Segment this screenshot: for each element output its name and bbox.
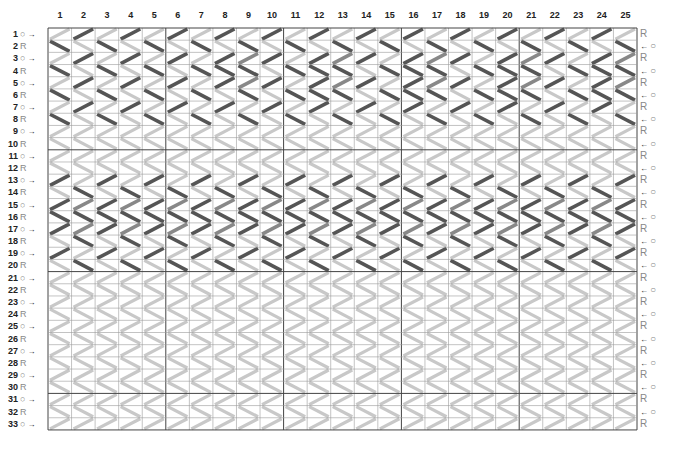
- stroke-cell: [380, 273, 400, 283]
- stroke-cell: [50, 139, 70, 149]
- stroke-cell: [215, 139, 235, 149]
- stroke-cell: [191, 321, 211, 331]
- stroke-cell: [121, 407, 141, 417]
- stroke-cell: [262, 212, 282, 222]
- stroke-cell: [380, 139, 400, 149]
- stroke-cell: [333, 419, 353, 429]
- stroke-cell: [356, 224, 376, 234]
- stroke-cell: [97, 321, 117, 331]
- stroke-cell: [451, 273, 471, 283]
- stroke-cell: [286, 419, 306, 429]
- stroke-cell: [545, 212, 565, 222]
- stroke-cell: [144, 419, 164, 429]
- stroke-cell: [451, 212, 471, 222]
- stroke-cell: [474, 114, 494, 124]
- stroke-cell: [521, 78, 541, 88]
- stroke-cell: [403, 187, 423, 197]
- stroke-cell: [333, 321, 353, 331]
- stroke-cell: [615, 394, 635, 404]
- stroke-cell: [592, 394, 612, 404]
- stroke-cell: [168, 41, 188, 51]
- stroke-cell: [615, 151, 635, 161]
- stroke-cell: [215, 53, 235, 63]
- stroke-cell: [427, 394, 447, 404]
- stroke-cell: [498, 126, 518, 136]
- stroke-cell: [286, 224, 306, 234]
- stroke-cell: [50, 285, 70, 295]
- stroke-cell: [74, 66, 94, 76]
- stroke-cell: [168, 114, 188, 124]
- stroke-cell: [498, 394, 518, 404]
- stroke-cell: [74, 114, 94, 124]
- stroke-cell: [380, 126, 400, 136]
- stroke-cell: [615, 187, 635, 197]
- stroke-cell: [309, 90, 329, 100]
- stroke-cell: [286, 394, 306, 404]
- stroke-cell: [356, 53, 376, 63]
- stroke-cell: [191, 260, 211, 270]
- stroke-cell: [121, 200, 141, 210]
- stroke-cell: [144, 321, 164, 331]
- stroke-cell: [74, 309, 94, 319]
- stroke-cell: [545, 200, 565, 210]
- stroke-cell: [168, 394, 188, 404]
- stroke-cell: [144, 175, 164, 185]
- stroke-cell: [215, 346, 235, 356]
- stroke-cell: [168, 139, 188, 149]
- stroke-cell: [74, 260, 94, 270]
- stroke-cell: [615, 382, 635, 392]
- stroke-cell: [50, 382, 70, 392]
- stroke-cell: [403, 90, 423, 100]
- stroke-cell: [74, 370, 94, 380]
- stroke-cell: [545, 114, 565, 124]
- stroke-cell: [521, 285, 541, 295]
- stroke-cell: [545, 297, 565, 307]
- stroke-cell: [521, 139, 541, 149]
- stroke-cell: [97, 53, 117, 63]
- stroke-cell: [333, 394, 353, 404]
- stroke-cell: [74, 200, 94, 210]
- stroke-cell: [121, 260, 141, 270]
- stroke-cell: [615, 260, 635, 270]
- stroke-cell: [592, 236, 612, 246]
- stroke-cell: [168, 224, 188, 234]
- stroke-cell: [568, 297, 588, 307]
- stroke-cell: [144, 139, 164, 149]
- stroke-cell: [191, 139, 211, 149]
- stroke-cell: [403, 419, 423, 429]
- stroke-cell: [498, 114, 518, 124]
- stroke-cell: [356, 102, 376, 112]
- stroke-cell: [521, 102, 541, 112]
- stroke-cell: [74, 102, 94, 112]
- stroke-cell: [521, 382, 541, 392]
- stroke-cell: [356, 358, 376, 368]
- stroke-cell: [238, 212, 258, 222]
- stroke-cell: [451, 321, 471, 331]
- stroke-cell: [262, 260, 282, 270]
- stroke-cell: [592, 41, 612, 51]
- stroke-cell: [262, 90, 282, 100]
- stroke-cell: [403, 248, 423, 258]
- stroke-cell: [521, 163, 541, 173]
- stroke-cell: [592, 66, 612, 76]
- stroke-cell: [592, 273, 612, 283]
- stroke-cell: [615, 114, 635, 124]
- stroke-cell: [356, 407, 376, 417]
- stroke-cell: [615, 334, 635, 344]
- stroke-cell: [498, 41, 518, 51]
- stroke-cell: [50, 187, 70, 197]
- stroke-cell: [74, 41, 94, 51]
- stroke-cell: [333, 407, 353, 417]
- stroke-cell: [451, 90, 471, 100]
- stroke-cell: [356, 382, 376, 392]
- stroke-cell: [451, 126, 471, 136]
- stroke-cell: [50, 419, 70, 429]
- stroke-cell: [286, 285, 306, 295]
- stroke-cell: [498, 285, 518, 295]
- stroke-cell: [356, 309, 376, 319]
- stroke-cell: [521, 114, 541, 124]
- stroke-cell: [50, 236, 70, 246]
- stroke-cell: [215, 163, 235, 173]
- stroke-cell: [592, 370, 612, 380]
- stroke-cell: [568, 394, 588, 404]
